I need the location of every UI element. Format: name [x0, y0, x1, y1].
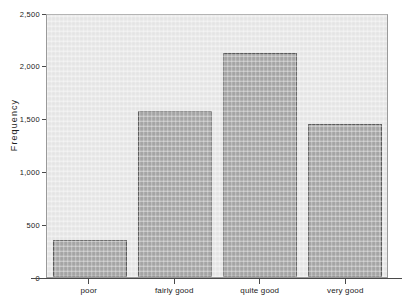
x-tick-mark-icon: [88, 279, 89, 284]
bar-chart: Frequency 2,500 2,000 1,500 1,000 500 0: [0, 0, 402, 305]
chart-title-clipped: [118, 0, 298, 2]
bar-slot: [217, 15, 302, 277]
bar-slot: [132, 15, 217, 277]
bar-fairly-good: [138, 111, 212, 277]
y-tick-500: 500: [27, 220, 46, 230]
x-label-very-good: very good: [303, 286, 389, 295]
x-tick-mark-icon: [345, 279, 346, 284]
bar-slot: [47, 15, 132, 277]
y-tick-1500: 1,500: [20, 115, 46, 125]
x-tick-mark-icon: [259, 279, 260, 284]
x-label-quite-good: quite good: [217, 286, 303, 295]
x-tick-mark-icon: [174, 279, 175, 284]
bar-slot: [302, 15, 387, 277]
bar-very-good: [308, 124, 382, 277]
y-tick-2500: 2,500: [20, 9, 46, 19]
bar-series: [47, 15, 387, 277]
y-tick-1000: 1,000: [20, 167, 46, 177]
y-tick-label: 1,000: [20, 168, 42, 177]
y-tick-label: 2,000: [20, 62, 42, 71]
x-label-fairly-good: fairly good: [132, 286, 218, 295]
x-axis-ticks: [46, 279, 388, 285]
y-tick-label: 500: [27, 221, 42, 230]
bar-poor: [53, 240, 127, 277]
plot-area: [46, 14, 388, 278]
y-tick-label: 2,500: [20, 10, 42, 19]
x-axis-category-labels: poor fairly good quite good very good: [46, 286, 388, 295]
y-tick-2000: 2,000: [20, 62, 46, 72]
y-axis-tick-labels: 2,500 2,000 1,500 1,000 500 0: [0, 0, 46, 305]
x-label-poor: poor: [46, 286, 132, 295]
bar-quite-good: [223, 53, 297, 277]
y-tick-label: 1,500: [20, 115, 42, 124]
